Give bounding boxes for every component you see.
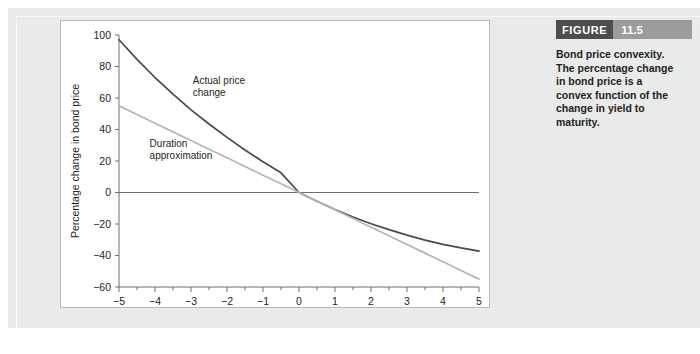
chart-annotation: change <box>193 87 226 98</box>
x-tick-label: 1 <box>332 295 338 307</box>
y-tick-label: 0 <box>105 186 111 198</box>
x-tick-label: 0 <box>296 295 302 307</box>
figure-label: FIGURE <box>556 20 613 39</box>
y-tick-label: 40 <box>99 123 111 135</box>
chart-annotation: approximation <box>150 150 213 161</box>
chart-plot-card: −60−40−20020406080100−5−4−3−2−1012345Act… <box>60 20 490 308</box>
x-tick-label: 2 <box>368 295 374 307</box>
figure-number: 11.5 <box>613 20 692 39</box>
x-tick-label: −4 <box>149 295 161 307</box>
y-tick-label: −20 <box>93 218 111 230</box>
x-tick-label: 4 <box>440 295 446 307</box>
x-tick-label: −1 <box>257 295 269 307</box>
figure-caption-text: Bond price convexity. The percentage cha… <box>556 48 678 130</box>
x-tick-label: −5 <box>113 295 125 307</box>
y-axis-title: Percentage change in bond price <box>69 84 81 238</box>
x-tick-label: −2 <box>221 295 233 307</box>
y-tick-label: 100 <box>93 29 111 41</box>
x-tick-label: −3 <box>185 295 197 307</box>
convexity-line-chart: −60−40−20020406080100−5−4−3−2−1012345Act… <box>61 21 489 307</box>
y-tick-label: 20 <box>99 155 111 167</box>
y-tick-label: −60 <box>93 281 111 293</box>
y-tick-label: −40 <box>93 249 111 261</box>
figure-page: −60−40−20020406080100−5−4−3−2−1012345Act… <box>0 0 700 354</box>
y-tick-label: 80 <box>99 60 111 72</box>
x-tick-label: 3 <box>404 295 410 307</box>
y-tick-label: 60 <box>99 92 111 104</box>
figure-caption-block: FIGURE 11.5 Bond price convexity. The pe… <box>556 20 692 130</box>
chart-annotation: Duration <box>150 138 188 149</box>
x-tick-label: 5 <box>476 295 482 307</box>
chart-annotation: Actual price <box>193 75 246 86</box>
figure-header: FIGURE 11.5 <box>556 20 692 39</box>
